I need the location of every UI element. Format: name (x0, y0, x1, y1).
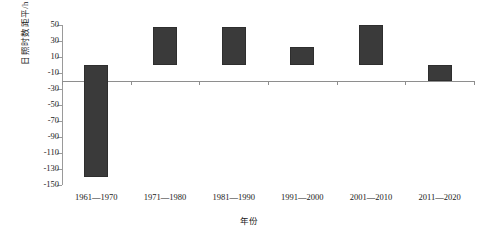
x-tick-mark (405, 81, 406, 85)
x-tick-mark (62, 81, 63, 85)
x-category-label: 1991—2000 (268, 192, 336, 203)
x-tick-mark (474, 81, 475, 85)
x-axis-title: 年份 (0, 216, 498, 227)
x-category-label: 2011—2020 (406, 192, 474, 203)
x-category-label: 1961—1970 (62, 192, 130, 203)
y-tick-label: -10 (48, 67, 59, 78)
y-axis-title: 日照时数距平/h (18, 0, 32, 79)
x-category-label: 1981—1990 (200, 192, 268, 203)
x-tick-mark (337, 81, 338, 85)
y-tick-label: -70 (48, 115, 59, 126)
x-tick-mark (268, 81, 269, 85)
bar (290, 47, 314, 65)
bar (84, 65, 108, 177)
y-tick-label: -110 (44, 147, 59, 158)
y-tick-label: 10 (51, 51, 60, 62)
bar (359, 25, 383, 65)
y-tick-label: -150 (43, 179, 59, 190)
bar (428, 65, 452, 81)
y-tick-label: 30 (51, 35, 60, 46)
x-tick-mark (131, 81, 132, 85)
y-tick-label: -50 (48, 99, 59, 110)
x-category-label: 1971—1980 (131, 192, 199, 203)
bar (153, 27, 177, 65)
bar-chart: 日照时数距平/h 503010-10-30-50-70-90-110-130-1… (0, 0, 498, 251)
y-tick-label: -90 (48, 131, 59, 142)
plot-area: 503010-10-30-50-70-90-110-130-150 (62, 25, 474, 185)
y-axis-spine (62, 25, 63, 185)
y-tick-label: -30 (48, 83, 59, 94)
bar (222, 27, 246, 65)
y-tick-label: -130 (43, 163, 59, 174)
x-tick-mark (199, 81, 200, 85)
y-tick-label: 50 (51, 19, 60, 30)
x-category-label: 2001—2010 (337, 192, 405, 203)
